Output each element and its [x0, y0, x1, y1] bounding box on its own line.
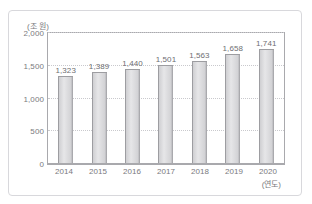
figure-container: (조 원) 05001,0001,5002,000 1,3231,3891,44… — [0, 0, 312, 204]
bar-value-label: 1,389 — [89, 62, 110, 71]
bar-value-label: 1,741 — [256, 39, 277, 48]
chart-card-frame: (조 원) 05001,0001,5002,000 1,3231,3891,44… — [8, 10, 302, 196]
bar-value-label: 1,501 — [156, 55, 177, 64]
bar-2019[interactable]: 1,658 — [225, 54, 240, 163]
y-tick-label: 500 — [30, 127, 44, 136]
bar-value-label: 1,323 — [55, 66, 76, 75]
gridline-0: 0 — [48, 163, 284, 164]
y-tick-label: 1,500 — [23, 61, 44, 70]
bar-2017[interactable]: 1,501 — [158, 65, 173, 163]
bar-2015[interactable]: 1,389 — [92, 72, 107, 163]
gridline-2000: 2,000 — [48, 32, 284, 33]
bar-slot: 1,389 — [82, 34, 115, 163]
x-axis-unit-container: (연도) — [47, 178, 285, 190]
x-axis-unit-label: (연도) — [262, 178, 281, 189]
y-tick-label: 0 — [39, 160, 44, 169]
bar-2020[interactable]: 1,741 — [259, 49, 274, 163]
bar-slot: 1,563 — [183, 34, 216, 163]
bar-value-label: 1,440 — [122, 59, 143, 68]
bar-2018[interactable]: 1,563 — [192, 61, 207, 163]
bar-2014[interactable]: 1,323 — [58, 76, 73, 163]
chart-title-partial — [80, 0, 240, 9]
bar-slot: 1,501 — [149, 34, 182, 163]
y-tick-label: 2,000 — [23, 29, 44, 38]
y-tick-label: 1,000 — [23, 94, 44, 103]
bar-value-label: 1,563 — [189, 51, 210, 60]
bar-slot: 1,440 — [116, 34, 149, 163]
bar-slot: 1,323 — [49, 34, 82, 163]
plot-area: 05001,0001,5002,000 1,3231,3891,4401,501… — [47, 32, 285, 165]
bar-value-label: 1,658 — [223, 44, 244, 53]
bars-group: 1,3231,3891,4401,5011,5631,6581,741 — [49, 34, 283, 163]
bar-slot: 1,741 — [250, 34, 283, 163]
bar-slot: 1,658 — [216, 34, 249, 163]
bar-2016[interactable]: 1,440 — [125, 69, 140, 163]
